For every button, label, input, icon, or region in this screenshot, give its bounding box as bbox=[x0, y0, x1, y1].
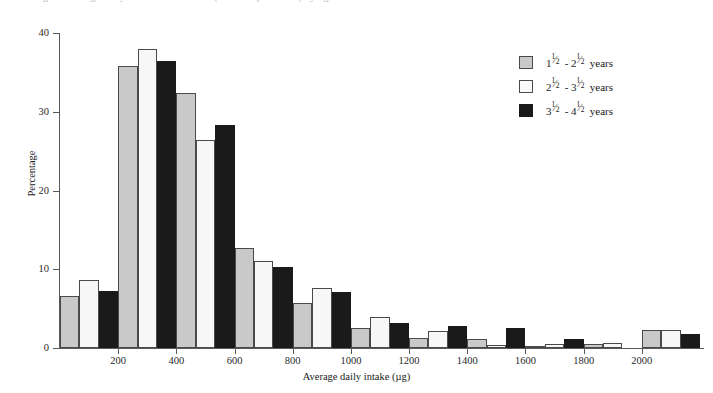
bar bbox=[273, 267, 292, 348]
bar bbox=[138, 49, 157, 348]
bar bbox=[351, 328, 370, 348]
x-axis-tick-label: 1800 bbox=[561, 356, 607, 367]
y-axis-tick bbox=[53, 191, 59, 192]
y-axis-tick-label: 10 bbox=[18, 264, 49, 275]
x-axis-title: Average daily intake (µg) bbox=[0, 371, 713, 382]
y-axis-tick-label: 30 bbox=[18, 107, 49, 118]
bar bbox=[467, 339, 486, 348]
bar bbox=[681, 334, 700, 348]
bar bbox=[176, 93, 195, 348]
x-axis-tick-label: 400 bbox=[153, 356, 199, 367]
legend-swatch bbox=[519, 104, 533, 117]
legend-swatch bbox=[519, 80, 533, 93]
y-axis-title: Percentage bbox=[26, 134, 37, 214]
x-axis-tick-label: 600 bbox=[212, 356, 258, 367]
y-axis-tick-label: 0 bbox=[18, 343, 49, 354]
bar bbox=[157, 61, 176, 348]
bar bbox=[661, 330, 680, 348]
y-axis-tick bbox=[53, 112, 59, 113]
x-axis-tick bbox=[409, 349, 410, 354]
bar bbox=[332, 292, 351, 348]
bar bbox=[409, 338, 428, 348]
y-axis-tick bbox=[53, 269, 59, 270]
bar bbox=[545, 344, 564, 348]
bar bbox=[448, 326, 467, 348]
y-axis-tick bbox=[53, 33, 59, 34]
legend-swatch bbox=[519, 56, 533, 69]
bar bbox=[506, 328, 525, 348]
legend-item: 31⁄2 - 41⁄2 years bbox=[519, 98, 699, 122]
y-axis-tick-label: 40 bbox=[18, 28, 49, 39]
x-axis-tick bbox=[467, 349, 468, 354]
x-axis-tick bbox=[176, 349, 177, 354]
x-axis-tick bbox=[642, 349, 643, 354]
x-axis-tick-label: 1600 bbox=[502, 356, 548, 367]
bar bbox=[312, 288, 331, 348]
x-axis-tick-label: 1200 bbox=[386, 356, 432, 367]
x-axis-tick-label: 800 bbox=[270, 356, 316, 367]
bar bbox=[428, 331, 447, 348]
legend-label: 11⁄2 - 21⁄2 years bbox=[546, 56, 613, 69]
bar bbox=[564, 339, 583, 348]
bar bbox=[584, 344, 603, 348]
x-axis-tick bbox=[235, 349, 236, 354]
x-axis-tick-label: 1400 bbox=[444, 356, 490, 367]
x-axis-tick-label: 2000 bbox=[619, 356, 665, 367]
bar bbox=[390, 323, 409, 348]
legend: 11⁄2 - 21⁄2 years21⁄2 - 31⁄2 years31⁄2 -… bbox=[519, 50, 699, 122]
bar bbox=[254, 261, 273, 348]
bar bbox=[642, 330, 661, 348]
bar bbox=[370, 317, 389, 348]
bar bbox=[215, 125, 234, 348]
bar bbox=[79, 280, 98, 349]
x-axis-tick bbox=[351, 349, 352, 354]
bar-chart: 010203040 200400600800100012001400160018… bbox=[0, 0, 713, 393]
bar bbox=[196, 140, 215, 348]
bar bbox=[235, 248, 254, 348]
legend-item: 21⁄2 - 31⁄2 years bbox=[519, 74, 699, 98]
x-axis-tick bbox=[525, 349, 526, 354]
x-axis-tick-label: 200 bbox=[95, 356, 141, 367]
bar bbox=[118, 66, 137, 348]
legend-label: 21⁄2 - 31⁄2 years bbox=[546, 80, 613, 93]
bar bbox=[293, 303, 312, 348]
x-axis-line bbox=[59, 348, 704, 349]
x-axis-tick bbox=[118, 349, 119, 354]
x-axis-tick bbox=[584, 349, 585, 354]
bar bbox=[603, 343, 622, 348]
x-axis-tick-label: 1000 bbox=[328, 356, 374, 367]
bar bbox=[60, 296, 79, 348]
x-axis-tick bbox=[293, 349, 294, 354]
legend-item: 11⁄2 - 21⁄2 years bbox=[519, 50, 699, 74]
bar bbox=[99, 291, 118, 348]
bar bbox=[525, 346, 544, 348]
legend-label: 31⁄2 - 41⁄2 years bbox=[546, 104, 613, 117]
bar bbox=[487, 345, 506, 348]
y-axis-tick bbox=[53, 348, 59, 349]
